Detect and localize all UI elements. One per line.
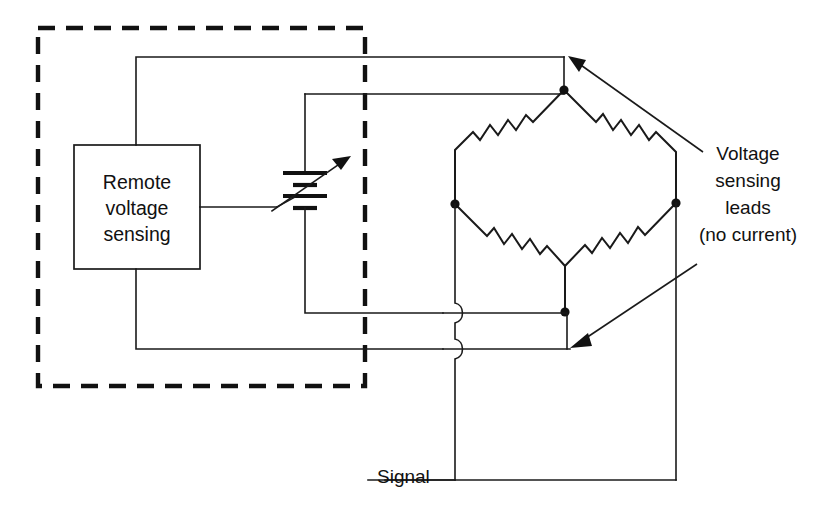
bridge-resistor-top-right (564, 90, 676, 203)
callout-label-line2: sensing (715, 170, 781, 191)
remote-sensing-label-line3: sensing (103, 223, 170, 245)
wire-sense-low (136, 269, 443, 349)
circuit-diagram-canvas: Remote voltage sensing Signal Voltage se… (0, 0, 827, 512)
bridge-resistor-bottom-right (565, 203, 676, 312)
adjustable-arrow-shaft (272, 160, 345, 211)
callout-leader-lower (583, 264, 697, 340)
bridge-resistor-top-left (455, 90, 564, 204)
callout-label-line3: leads (725, 197, 770, 218)
bridge-resistor-bottom-left (455, 204, 565, 312)
callout-leader-upper (578, 63, 703, 152)
remote-sensing-label-line1: Remote (103, 171, 171, 193)
callout-label-line4: (no current) (699, 224, 797, 245)
wire-source-bottom-stem (305, 208, 443, 313)
remote-sensing-label-line2: voltage (106, 197, 169, 219)
circuit-schematic: Remote voltage sensing Signal Voltage se… (0, 0, 827, 512)
wire-left-leg-with-hops (455, 204, 463, 480)
callout-label-line1: Voltage (716, 143, 779, 164)
bridge-node-bottom (560, 307, 569, 316)
callout-arrow-upper (568, 56, 586, 72)
bridge-node-top (559, 85, 568, 94)
signal-label: Signal (377, 466, 430, 487)
